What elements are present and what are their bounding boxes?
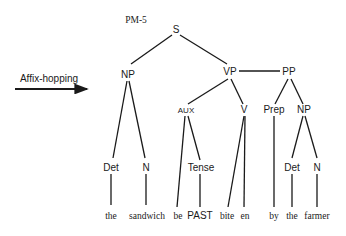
edge-np-n (129, 81, 145, 158)
diagram-title: PM-5 (125, 15, 147, 25)
edge-vp-aux (188, 79, 228, 104)
leaf-word: by (269, 211, 279, 221)
node-vp: VP (223, 66, 237, 77)
edge-v-bite (228, 116, 244, 207)
edge-pp-np (291, 79, 303, 104)
leaf-word: be (174, 211, 183, 221)
leaf-word: PAST (187, 210, 212, 221)
edge-s-vp (180, 35, 227, 64)
edge-pp-prep (275, 79, 288, 104)
node-np-subject: NP (121, 69, 135, 80)
node-det-object: Det (284, 162, 300, 173)
node-n-object: N (313, 162, 320, 173)
edge-vp-v (231, 79, 243, 104)
node-pp: PP (282, 66, 296, 77)
leaf-word: the (105, 211, 117, 221)
edge-np-det (113, 81, 127, 158)
leaf-word: the (286, 211, 298, 221)
edge-np2-det (292, 116, 303, 158)
tree-edges (111, 35, 317, 207)
edge-v-en (244, 116, 245, 207)
node-det-subject: Det (103, 162, 119, 173)
leaf-word: en (241, 211, 250, 221)
node-prep: Prep (263, 104, 285, 115)
edge-aux-tense (188, 116, 200, 160)
node-np-object: NP (297, 104, 311, 115)
node-s: S (173, 24, 180, 35)
transformation-label: Affix-hopping (20, 73, 78, 84)
tree-leaves: the sandwich be PAST bite en by the farm… (105, 210, 330, 221)
tree-nodes: S NP VP PP AUX V Prep NP Det N Tense Det… (103, 24, 320, 173)
edge-s-np (131, 35, 172, 64)
node-n-subject: N (142, 162, 149, 173)
node-tense: Tense (188, 162, 215, 173)
leaf-word: sandwich (129, 211, 165, 221)
edge-np2-n (305, 116, 317, 158)
tree-diagram: PM-5 Affix-hopping S NP VP PP AUX V (0, 0, 346, 236)
node-aux: AUX (178, 106, 195, 115)
edge-aux-be (177, 116, 185, 207)
leaf-word: bite (220, 211, 234, 221)
leaf-word: farmer (304, 211, 330, 221)
node-v: V (241, 104, 248, 115)
